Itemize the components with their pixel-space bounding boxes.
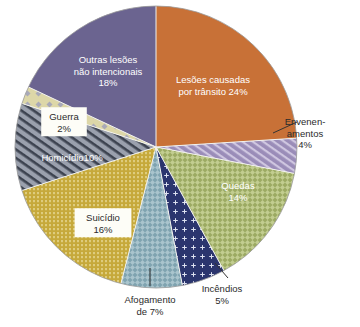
slice-label-homicidio: Homicídio10% bbox=[41, 152, 103, 163]
slice-label-incendios: Incêndios5% bbox=[202, 283, 243, 306]
pie-chart-figure: Lesões causadaspor trânsito 24%Envenen-a… bbox=[0, 0, 360, 327]
slice-label-afogamento: Afogamentode 7% bbox=[124, 294, 175, 317]
slice-label-transito: Lesões causadaspor trânsito 24% bbox=[176, 74, 250, 97]
pie-chart-svg: Lesões causadaspor trânsito 24%Envenen-a… bbox=[0, 0, 360, 327]
